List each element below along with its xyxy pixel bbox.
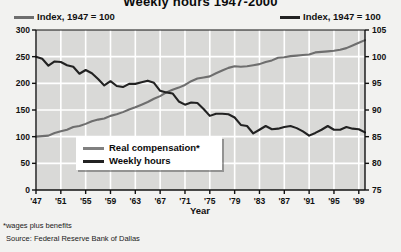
series-legend-label-weekly-hours: Weekly hours: [109, 155, 171, 166]
series-legend-label-real-compensation: Real compensation*: [109, 142, 200, 153]
chart-figure: Weekly hours 1947-2000 Index, 1947 = 100…: [0, 0, 401, 252]
x-axis-tick-'75: '75: [198, 196, 222, 206]
series-legend-swatch-real-compensation: [83, 147, 104, 150]
y-axis-left-tick-100: 100: [2, 132, 30, 142]
y-axis-left-tick-50: 50: [2, 158, 30, 168]
x-axis-tick-'55: '55: [74, 196, 98, 206]
y-axis-right-tick-95: 95: [372, 78, 400, 88]
x-axis-tick-'67: '67: [148, 196, 172, 206]
x-axis-tick-'63: '63: [123, 196, 147, 206]
y-axis-right-tick-75: 75: [372, 185, 400, 195]
series-legend-item-weekly-hours: Weekly hours: [83, 155, 171, 166]
x-axis-tick-'59: '59: [98, 196, 122, 206]
x-axis-tick-'87: '87: [272, 196, 296, 206]
y-axis-left-tick-300: 300: [2, 25, 30, 35]
y-axis-right-tick-80: 80: [372, 158, 400, 168]
y-axis-right-tick-100: 100: [372, 52, 400, 62]
y-axis-left-tick-150: 150: [2, 105, 30, 115]
y-axis-left-tick-0: 0: [2, 185, 30, 195]
footnote-wages: *wages plus benefits: [3, 221, 72, 230]
footnote-source: Source: Federal Reserve Bank of Dallas: [6, 234, 140, 243]
series-legend-swatch-weekly-hours: [83, 160, 104, 163]
y-axis-right-tick-105: 105: [372, 25, 400, 35]
y-axis-left-tick-250: 250: [2, 52, 30, 62]
x-axis-tick-'91: '91: [297, 196, 321, 206]
y-axis-left-tick-200: 200: [2, 78, 30, 88]
x-axis-tick-'95: '95: [322, 196, 346, 206]
x-axis-tick-'99: '99: [347, 196, 371, 206]
x-axis-tick-'71: '71: [173, 196, 197, 206]
x-axis-tick-'51: '51: [49, 196, 73, 206]
y-axis-right-tick-90: 90: [372, 105, 400, 115]
x-axis-tick-'79: '79: [223, 196, 247, 206]
x-axis-tick-'83: '83: [247, 196, 271, 206]
series-legend-item-real-compensation: Real compensation*: [83, 142, 200, 153]
y-axis-right-tick-85: 85: [372, 132, 400, 142]
x-axis-tick-'47: '47: [24, 196, 48, 206]
series-legend-box: Real compensation* Weekly hours: [76, 137, 222, 170]
x-axis-title: Year: [170, 205, 230, 216]
